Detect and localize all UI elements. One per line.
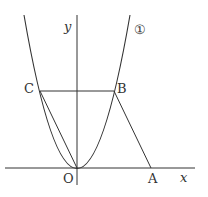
- point-label-a: A: [147, 171, 158, 186]
- point-label-b: B: [117, 81, 127, 96]
- coordinate-diagram: y ① C B O A x: [0, 0, 208, 197]
- curve-label: ①: [134, 22, 146, 37]
- segment-oc: [40, 91, 77, 168]
- segment-ba: [114, 91, 151, 168]
- y-axis-label: y: [63, 19, 72, 34]
- x-axis-label: x: [180, 170, 188, 185]
- origin-label: O: [63, 171, 74, 186]
- point-label-c: C: [24, 81, 34, 96]
